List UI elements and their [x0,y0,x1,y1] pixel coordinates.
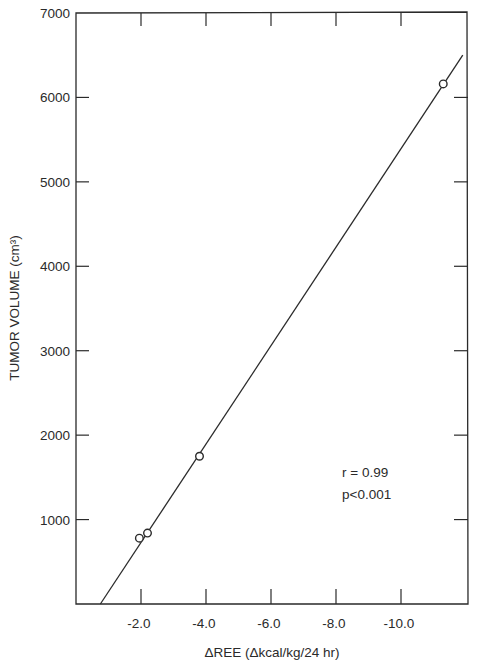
x-axis-title: ΔREE (Δkcal/kg/24 hr) [204,645,339,660]
y-axis-ticks: 1000200030004000500060007000 [40,6,468,528]
data-point [439,80,447,88]
x-tick-label: -2.0 [127,616,150,631]
plot-border [76,12,468,604]
y-tick-label: 6000 [40,90,70,105]
y-tick-label: 7000 [40,6,70,21]
data-point [136,534,144,542]
scatter-chart: -2.0-4.0-6.0-8.0-10.0 100020003000400050… [0,0,487,671]
y-tick-label: 4000 [40,259,70,274]
y-tick-label: 2000 [40,428,70,443]
x-axis-ticks: -2.0-4.0-6.0-8.0-10.0 [127,13,414,631]
fit-line [100,55,462,604]
regression-line [100,55,462,604]
x-tick-label: -10.0 [384,616,415,631]
annotation-p: p<0.001 [342,487,391,502]
y-tick-label: 3000 [40,344,70,359]
data-point [144,529,152,537]
data-point [196,452,204,460]
annotation-r: r = 0.99 [342,465,388,480]
y-tick-label: 1000 [40,513,70,528]
y-tick-label: 5000 [40,175,70,190]
x-tick-label: -6.0 [257,616,280,631]
x-tick-label: -8.0 [322,616,345,631]
x-tick-label: -4.0 [192,616,215,631]
y-axis-title: TUMOR VOLUME (cm³) [7,235,22,381]
plot-frame [76,12,468,604]
